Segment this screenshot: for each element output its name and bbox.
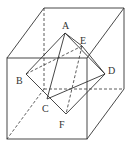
octahedron-edges	[26, 33, 105, 114]
label-f: F	[59, 119, 65, 130]
label-c: C	[42, 103, 49, 114]
label-e: E	[80, 35, 86, 46]
diagram-canvas: A E D B C F	[0, 0, 132, 147]
cube-octahedron-diagram: A E D B C F	[0, 0, 132, 147]
label-d: D	[108, 65, 115, 76]
label-a: A	[62, 20, 70, 31]
label-b: B	[16, 75, 23, 86]
